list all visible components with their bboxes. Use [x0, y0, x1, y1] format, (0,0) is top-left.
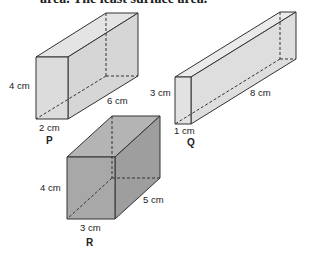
p-length-label: 6 cm	[107, 95, 128, 106]
r-height-label: 4 cm	[40, 182, 61, 193]
q-width-label: 1 cm	[174, 125, 195, 136]
p-height-label: 4 cm	[9, 80, 30, 91]
r-width-label: 3 cm	[80, 222, 101, 233]
r-shape-name: R	[86, 237, 93, 248]
cuboid-q	[175, 12, 296, 124]
r-length-label: 5 cm	[143, 194, 164, 205]
p-width-label: 2 cm	[39, 122, 60, 133]
q-shape-name: Q	[187, 137, 195, 148]
p-shape-name: P	[46, 135, 53, 146]
q-height-label: 3 cm	[150, 87, 171, 98]
q-length-label: 8 cm	[250, 87, 271, 98]
